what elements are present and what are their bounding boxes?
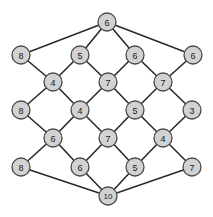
graph-figure: 685664778453674865710 [0, 0, 213, 217]
node-circle [99, 187, 117, 205]
graph-edge [107, 22, 193, 55]
graph-node[interactable]: 5 [126, 101, 144, 119]
node-circle [44, 129, 62, 147]
node-circle [71, 46, 89, 64]
graph-node[interactable]: 5 [71, 46, 89, 64]
graph-node[interactable]: 4 [44, 73, 62, 91]
node-circle [154, 129, 172, 147]
graph-node[interactable]: 7 [99, 73, 117, 91]
node-circle [44, 73, 62, 91]
node-circle [71, 158, 89, 176]
graph-node[interactable]: 6 [126, 46, 144, 64]
graph-node[interactable]: 5 [126, 158, 144, 176]
node-circle [12, 158, 30, 176]
node-circle [12, 46, 30, 64]
node-circle [71, 101, 89, 119]
graph-canvas: 685664778453674865710 [0, 0, 213, 217]
node-layer: 685664778453674865710 [12, 13, 202, 205]
graph-node[interactable]: 4 [71, 101, 89, 119]
graph-node[interactable]: 4 [154, 129, 172, 147]
node-circle [99, 73, 117, 91]
graph-node[interactable]: 8 [12, 158, 30, 176]
graph-node[interactable]: 6 [98, 13, 116, 31]
edge-layer [21, 22, 193, 196]
node-circle [12, 101, 30, 119]
node-circle [99, 129, 117, 147]
node-circle [126, 101, 144, 119]
node-circle [98, 13, 116, 31]
graph-node[interactable]: 6 [44, 129, 62, 147]
graph-node[interactable]: 3 [183, 101, 201, 119]
graph-node[interactable]: 8 [12, 101, 30, 119]
graph-node[interactable]: 8 [12, 46, 30, 64]
node-circle [184, 46, 202, 64]
graph-node[interactable]: 6 [71, 158, 89, 176]
graph-node[interactable]: 7 [99, 129, 117, 147]
node-circle [126, 158, 144, 176]
node-circle [154, 73, 172, 91]
node-circle [183, 101, 201, 119]
graph-node[interactable]: 10 [99, 187, 117, 205]
graph-node[interactable]: 6 [184, 46, 202, 64]
graph-node[interactable]: 7 [183, 158, 201, 176]
node-circle [183, 158, 201, 176]
graph-node[interactable]: 7 [154, 73, 172, 91]
node-circle [126, 46, 144, 64]
